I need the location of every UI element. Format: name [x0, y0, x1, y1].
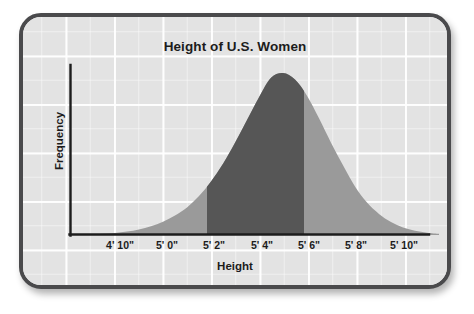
x-tick-label: 4' 10" [106, 239, 134, 251]
x-axis-title: Height [23, 260, 447, 272]
chart-card: Height of U.S. Women Frequency Height 4'… [19, 13, 451, 289]
figure-root: Height of U.S. Women Frequency Height 4'… [0, 0, 474, 314]
bell-curve-plot [23, 17, 447, 285]
x-tick-label: 5' 8" [345, 239, 367, 251]
x-tick-label: 5' 4" [251, 239, 273, 251]
x-tick-label: 5' 6" [298, 239, 320, 251]
y-axis-title: Frequency [53, 96, 65, 186]
x-tick-label: 5' 2" [203, 239, 225, 251]
x-tick-label: 5' 0" [156, 239, 178, 251]
x-tick-label: 5' 10" [390, 239, 418, 251]
chart-title: Height of U.S. Women [23, 39, 447, 54]
